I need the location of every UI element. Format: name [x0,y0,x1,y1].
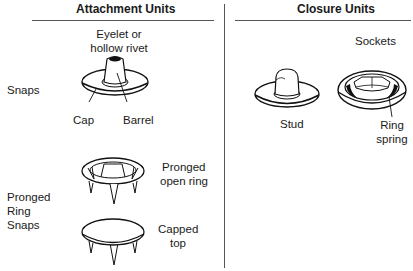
label-line: top [158,236,198,250]
row-label-line: Snaps [7,218,50,232]
capped-top-illustration [80,217,146,269]
label-line: spring [372,132,412,146]
row-label-line: Ring [7,204,50,218]
label-line: Capped [158,222,198,236]
label-capped-top: Capped top [158,222,198,250]
heading-attachment-units: Attachment Units [76,2,175,16]
label-pronged-open-ring: Pronged open ring [160,160,208,188]
label-barrel: Barrel [123,113,154,127]
label-eyelet: Eyelet or hollow rivet [84,27,154,55]
left-heading-rule [32,20,214,21]
label-line: hollow rivet [84,41,154,55]
heading-closure-units: Closure Units [297,2,375,16]
row-label-line: Pronged [7,190,50,204]
label-line: Ring [372,118,412,132]
column-divider [224,4,225,268]
row-label-pronged-ring-snaps: Pronged Ring Snaps [7,190,50,232]
pronged-open-ring-illustration [80,155,146,207]
label-cap: Cap [73,113,94,127]
label-ring-spring: Ring spring [372,118,412,146]
row-label-snaps: Snaps [7,83,40,97]
label-line: Eyelet or [84,27,154,41]
stud-illustration [253,67,323,113]
label-sockets: Sockets [355,34,396,48]
label-line: open ring [160,174,208,188]
right-heading-rule [235,20,411,21]
label-line: Pronged [160,160,208,174]
label-stud: Stud [280,117,304,131]
eyelet-snap-illustration [76,55,156,115]
socket-illustration [336,66,408,112]
